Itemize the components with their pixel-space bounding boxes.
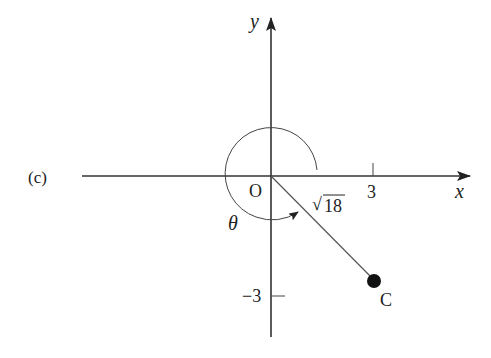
x-axis-label: x — [454, 180, 464, 202]
segment-length-label: √ 18 — [312, 194, 345, 216]
origin-label: O — [249, 181, 262, 201]
point-label: C — [380, 290, 392, 310]
sqrt-symbol: √ — [312, 194, 322, 214]
y-axis-label: y — [248, 10, 259, 33]
x-tick-label: 3 — [367, 182, 376, 202]
y-tick-label: −3 — [242, 286, 261, 306]
sqrt-radicand: 18 — [324, 196, 342, 216]
angle-label: θ — [228, 212, 238, 234]
point-c — [367, 274, 381, 288]
coordinate-diagram: (c) y x O 3 −3 θ C √ 18 — [0, 0, 491, 358]
segment-oc — [271, 176, 374, 280]
part-label: (c) — [28, 168, 47, 187]
